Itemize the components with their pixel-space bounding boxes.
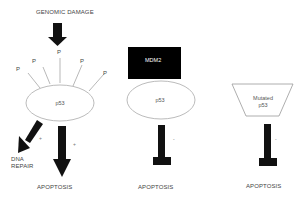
p53-label: p53 — [148, 97, 172, 104]
negative-sign: - — [275, 136, 277, 142]
genomic-damage-arrow-icon — [48, 23, 67, 46]
inhibition-bar-icon — [153, 125, 171, 165]
apoptosis-arrow-icon — [53, 126, 71, 177]
positive-sign: + — [73, 141, 76, 147]
negative-sign: - — [173, 136, 175, 142]
dna-repair-label-line2: REPAIR — [11, 163, 34, 169]
apoptosis-label: APOPTOSIS — [246, 183, 281, 189]
mdm2-label: MDM2 — [145, 57, 159, 64]
mutated-p53-label-line2: p53 — [246, 102, 280, 109]
mutated-p53-label-line1: Mutated — [246, 95, 280, 102]
phosphate-label: P — [103, 70, 107, 76]
phosphate-label: P — [80, 58, 84, 64]
phosphate-label: P — [57, 49, 61, 55]
apoptosis-label: APOPTOSIS — [138, 184, 173, 190]
p53-label: p53 — [46, 100, 74, 107]
inhibition-bar-icon — [259, 124, 277, 166]
positive-sign: + — [39, 135, 42, 141]
apoptosis-label: APOPTOSIS — [37, 184, 72, 190]
phosphate-bonds — [28, 58, 104, 91]
phosphate-label: P — [32, 58, 36, 64]
phosphate-label: P — [16, 66, 20, 72]
dna-repair-label-line1: DNA — [11, 156, 24, 162]
